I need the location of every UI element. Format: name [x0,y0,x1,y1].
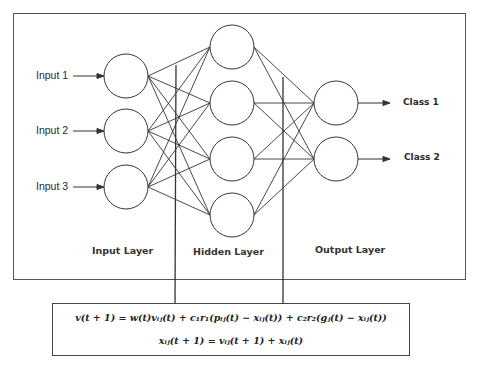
velocity-update-equation: v(t + 1) = w(t)vᵢⱼ(t) + c₁r₁(pᵢⱼ(t) − xᵢ… [53,312,409,323]
input-arrows [73,74,104,190]
input-layer-label: Input Layer [92,245,153,256]
output-node-2 [314,137,358,181]
output-label-1: Class 1 [403,97,439,107]
position-update-equation: xᵢⱼ(t + 1) = vᵢⱼ(t + 1) + xᵢⱼ(t) [53,335,409,346]
hidden-node-2 [210,81,254,125]
output-label-2: Class 2 [404,152,440,162]
input-node-1 [104,54,148,98]
pso-update-formula-box: v(t + 1) = w(t)vᵢⱼ(t) + c₁r₁(pᵢⱼ(t) − xᵢ… [52,303,410,356]
output-arrows [358,101,390,162]
input-node-2 [104,109,148,153]
hidden-node-1 [210,25,254,69]
output-node-1 [314,81,358,125]
input-label-2: Input 2 [36,124,68,136]
input-label-1: Input 1 [36,69,68,81]
input-node-3 [104,165,148,209]
input-label-3: Input 3 [36,180,68,192]
hidden-node-4 [210,193,254,237]
output-layer-label: Output Layer [315,244,385,255]
hidden-layer-label: Hidden Layer [193,246,264,257]
hidden-node-3 [210,137,254,181]
